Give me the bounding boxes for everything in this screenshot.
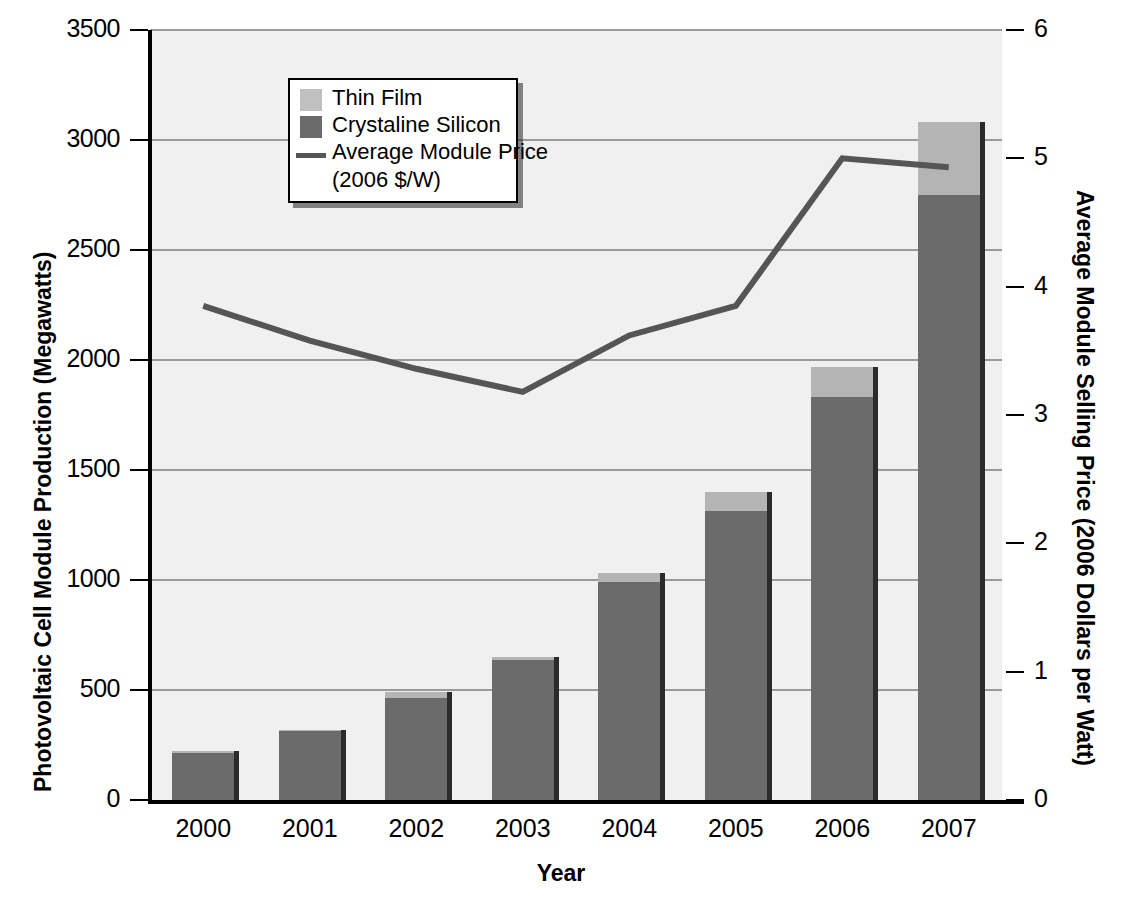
bar-2002 <box>385 692 447 800</box>
y-tick <box>130 689 148 691</box>
gridline <box>150 249 1002 251</box>
legend-item-thin-film: Thin Film <box>290 86 516 111</box>
x-tick-label-2005: 2005 <box>681 814 791 843</box>
legend-item-average-module-price: Average Module Price <box>290 140 516 165</box>
gridline <box>150 139 1002 141</box>
y-tick <box>130 579 148 581</box>
y2-tick <box>1006 286 1024 288</box>
y2-tick <box>1006 29 1024 31</box>
crystaline-silicon-segment <box>172 753 234 800</box>
y-tick-label: 3500 <box>2 14 120 43</box>
crystaline-silicon-segment <box>385 698 447 800</box>
bar-shadow <box>660 573 665 800</box>
y2-tick-label: 6 <box>1034 14 1048 43</box>
bar-shadow <box>234 751 239 801</box>
x-axis-line <box>148 800 1024 804</box>
y2-tick-label: 1 <box>1034 656 1048 685</box>
y-tick <box>130 469 148 471</box>
x-tick-label-2000: 2000 <box>148 814 258 843</box>
gridline <box>150 359 1002 361</box>
thin-film-segment <box>598 573 660 582</box>
bar-2006 <box>811 367 873 800</box>
y-tick-label: 500 <box>2 674 120 703</box>
y-tick-label: 2000 <box>2 344 120 373</box>
thin-film-segment <box>918 122 980 195</box>
x-axis-title: Year <box>0 860 1122 887</box>
y-tick-label: 1000 <box>2 564 120 593</box>
y2-tick-label: 4 <box>1034 271 1048 300</box>
x-tick-label-2004: 2004 <box>574 814 684 843</box>
y-tick-label: 3000 <box>2 124 120 153</box>
legend-sublabel-average-module-price: (2006 $/W) <box>290 167 516 193</box>
thin-film-segment <box>811 367 873 398</box>
bar-2005 <box>705 492 767 800</box>
y2-tick <box>1006 799 1024 801</box>
y-tick-label: 2500 <box>2 234 120 263</box>
bar-shadow <box>447 692 452 800</box>
bar-shadow <box>554 657 559 800</box>
y-axis-title: Photovoltaic Cell Module Production (Meg… <box>30 251 57 792</box>
crystaline-silicon-segment <box>918 195 980 800</box>
legend-label-crystaline-silicon: Crystaline Silicon <box>332 113 501 138</box>
y-tick-label: 0 <box>2 784 120 813</box>
y-tick <box>130 29 148 31</box>
x-tick-label-2002: 2002 <box>361 814 471 843</box>
y-tick <box>130 359 148 361</box>
crystaline-silicon-segment <box>279 731 341 800</box>
chart-root: 0500100015002000250030003500 0123456 200… <box>0 0 1122 903</box>
bar-2004 <box>598 573 660 800</box>
y-tick <box>130 139 148 141</box>
y2-tick-label: 0 <box>1034 784 1048 813</box>
crystaline-silicon-segment <box>811 397 873 800</box>
y-tick <box>130 249 148 251</box>
bar-2000 <box>172 751 234 801</box>
bar-shadow <box>767 492 772 800</box>
bar-shadow <box>341 730 346 800</box>
y2-tick-label: 3 <box>1034 399 1048 428</box>
x-tick-label-2006: 2006 <box>787 814 897 843</box>
chart-legend: Thin Film Crystaline Silicon Average Mod… <box>288 78 518 203</box>
legend-label-average-module-price: Average Module Price <box>332 140 548 165</box>
legend-label-thin-film: Thin Film <box>332 86 422 111</box>
y-tick-label: 1500 <box>2 454 120 483</box>
y2-tick <box>1006 542 1024 544</box>
y-tick <box>130 799 148 801</box>
bar-2003 <box>492 657 554 800</box>
crystaline-silicon-segment <box>492 660 554 800</box>
y2-tick-label: 5 <box>1034 142 1048 171</box>
y-axis-line <box>148 30 152 802</box>
bar-shadow <box>980 122 985 800</box>
y2-tick <box>1006 671 1024 673</box>
price-line-swatch <box>296 153 326 158</box>
crystaline-silicon-segment <box>598 582 660 800</box>
y2-tick <box>1006 414 1024 416</box>
bar-shadow <box>873 367 878 800</box>
crystaline-silicon-swatch <box>300 116 322 138</box>
gridline <box>150 29 1002 31</box>
y2-tick-label: 2 <box>1034 527 1048 556</box>
y2-axis-title: Average Module Selling Price (2006 Dolla… <box>1071 190 1098 766</box>
bar-2007 <box>918 122 980 800</box>
legend-item-crystaline-silicon: Crystaline Silicon <box>290 113 516 138</box>
thin-film-swatch <box>300 89 322 111</box>
x-tick-label-2003: 2003 <box>468 814 578 843</box>
x-tick-label-2007: 2007 <box>894 814 1004 843</box>
y2-tick <box>1006 157 1024 159</box>
x-tick-label-2001: 2001 <box>255 814 365 843</box>
bar-2001 <box>279 730 341 800</box>
crystaline-silicon-segment <box>705 511 767 800</box>
thin-film-segment <box>705 492 767 511</box>
